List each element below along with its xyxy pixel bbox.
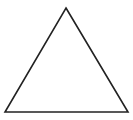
diagram-canvas: [0, 0, 133, 120]
triangle-shape: [5, 8, 128, 112]
